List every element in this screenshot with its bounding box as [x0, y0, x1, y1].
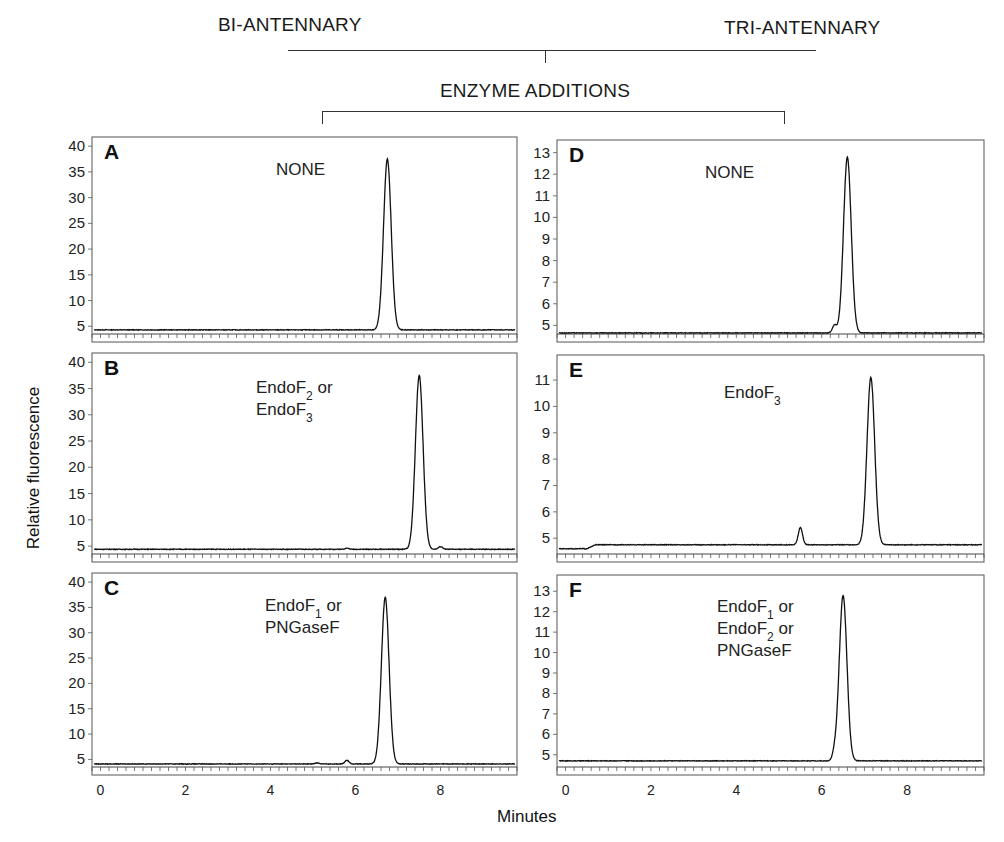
y-tick-label: 9 — [542, 230, 550, 247]
enzyme-annotation: NONE — [276, 160, 325, 179]
y-tick-label: 12 — [533, 603, 550, 620]
y-tick-label: 9 — [542, 664, 550, 681]
panel-e: 567891011EEndoF3 — [533, 355, 984, 562]
y-tick-label: 25 — [68, 214, 85, 231]
y-tick-label: 15 — [68, 266, 85, 283]
y-tick-label: 11 — [534, 187, 550, 204]
y-tick-label: 5 — [77, 317, 85, 334]
y-tick-label: 35 — [68, 163, 85, 180]
y-tick-label: 20 — [68, 458, 85, 475]
panel-f: 567891011121302468FEndoF1 orEndoF2 orPNG… — [533, 575, 984, 798]
enzyme-annotation: PNGaseF — [265, 618, 340, 637]
y-tick-label: 35 — [68, 598, 85, 615]
chromatogram-trace — [559, 377, 982, 549]
y-tick-label: 9 — [542, 424, 550, 441]
enzyme-annotation: NONE — [705, 163, 754, 182]
y-tick-label: 5 — [77, 537, 85, 554]
panel-letter: C — [104, 576, 119, 599]
chromatogram-panels: 510152025303540ANONE510152025303540BEndo… — [0, 0, 1004, 842]
panel-letter: F — [569, 578, 582, 601]
y-tick-label: 10 — [68, 511, 85, 528]
y-tick-label: 25 — [68, 649, 85, 666]
panel-c: 51015202530354002468CEndoF1 orPNGaseF — [68, 573, 517, 798]
y-tick-label: 11 — [534, 371, 550, 388]
y-tick-label: 15 — [68, 485, 85, 502]
panel-letter: E — [569, 358, 583, 381]
y-tick-label: 7 — [542, 273, 550, 290]
y-tick-label: 13 — [533, 582, 550, 599]
panel-letter: D — [569, 143, 584, 166]
y-tick-label: 5 — [542, 529, 550, 546]
panel-b: 510152025303540BEndoF2 orEndoF3 — [68, 353, 517, 562]
enzyme-annotation: EndoF3 — [724, 383, 781, 408]
y-tick-label: 8 — [542, 252, 550, 269]
y-tick-label: 6 — [542, 295, 550, 312]
x-tick-label: 8 — [903, 782, 911, 798]
x-tick-label: 4 — [267, 782, 275, 798]
y-tick-label: 6 — [542, 503, 550, 520]
y-tick-label: 6 — [542, 725, 550, 742]
x-tick-label: 4 — [732, 782, 740, 798]
enzyme-annotation: PNGaseF — [717, 641, 792, 660]
y-tick-label: 25 — [68, 432, 85, 449]
y-tick-label: 11 — [534, 623, 550, 640]
y-tick-label: 10 — [68, 725, 85, 742]
chromatogram-trace — [559, 157, 982, 333]
y-tick-label: 10 — [533, 644, 550, 661]
y-tick-label: 35 — [68, 380, 85, 397]
y-tick-label: 30 — [68, 406, 85, 423]
x-tick-label: 6 — [352, 782, 360, 798]
y-tick-label: 15 — [68, 700, 85, 717]
y-tick-label: 5 — [542, 746, 550, 763]
x-tick-label: 8 — [437, 782, 445, 798]
y-tick-label: 8 — [542, 684, 550, 701]
y-tick-label: 20 — [68, 240, 85, 257]
x-tick-label: 0 — [97, 782, 105, 798]
y-tick-label: 12 — [533, 165, 550, 182]
panel-frame — [557, 575, 984, 775]
y-tick-label: 30 — [68, 189, 85, 206]
y-tick-label: 40 — [68, 573, 85, 590]
y-tick-label: 40 — [68, 137, 85, 154]
x-tick-label: 0 — [562, 782, 570, 798]
y-tick-label: 5 — [542, 316, 550, 333]
panel-d: 5678910111213DNONE — [533, 140, 984, 342]
panel-frame — [557, 140, 984, 342]
enzyme-annotation: EndoF3 — [256, 400, 313, 425]
y-tick-label: 7 — [542, 476, 550, 493]
panel-letter: B — [104, 356, 119, 379]
y-tick-label: 30 — [68, 624, 85, 641]
y-tick-label: 20 — [68, 674, 85, 691]
y-tick-label: 5 — [77, 750, 85, 767]
x-tick-label: 6 — [818, 782, 826, 798]
panel-letter: A — [104, 140, 119, 163]
chromatogram-trace — [94, 159, 515, 330]
y-tick-label: 10 — [68, 292, 85, 309]
y-tick-label: 7 — [542, 705, 550, 722]
x-tick-label: 2 — [182, 782, 190, 798]
panel-a: 510152025303540ANONE — [68, 137, 517, 342]
y-tick-label: 13 — [533, 144, 550, 161]
y-tick-label: 10 — [533, 208, 550, 225]
y-tick-label: 8 — [542, 450, 550, 467]
y-tick-label: 10 — [533, 397, 550, 414]
x-tick-label: 2 — [647, 782, 655, 798]
y-tick-label: 40 — [68, 353, 85, 370]
